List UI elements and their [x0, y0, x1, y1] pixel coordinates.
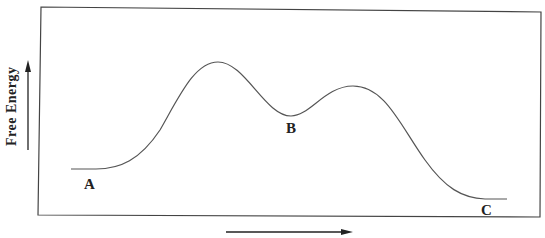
plot-frame — [38, 7, 541, 217]
x-arrowhead-icon — [341, 229, 353, 235]
energy-diagram: Free Energy A B C — [0, 0, 545, 238]
y-axis-label: Free Energy — [4, 67, 19, 147]
label-C: C — [481, 202, 492, 218]
y-arrowhead-icon — [25, 60, 31, 72]
label-A: A — [84, 176, 95, 192]
label-B: B — [286, 120, 296, 136]
